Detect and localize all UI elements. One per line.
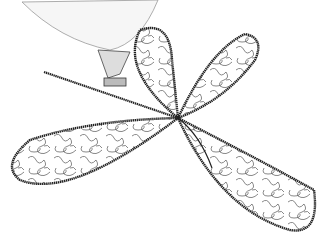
petal-left — [12, 118, 178, 184]
presser-foot — [104, 78, 126, 86]
petal-bottom — [178, 118, 315, 231]
quilting-illustration — [0, 0, 326, 238]
petal-right — [178, 34, 258, 118]
quilting-illustration-svg — [0, 0, 326, 238]
